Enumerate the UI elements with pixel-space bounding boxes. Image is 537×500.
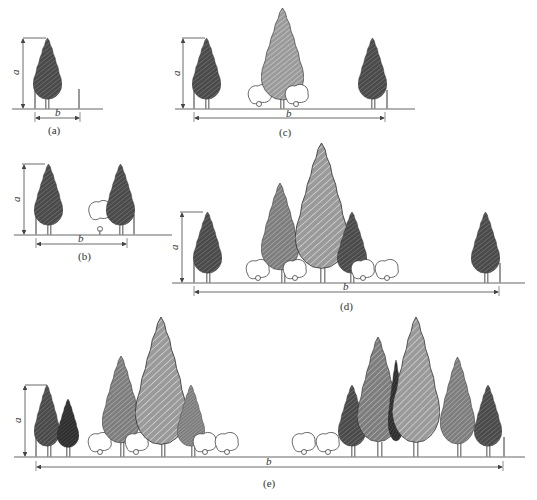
tree-dark (358, 38, 387, 109)
height-label: a (11, 417, 23, 423)
height-label: a (10, 196, 22, 202)
caption-a: (a) (48, 124, 61, 137)
tree-dark (193, 212, 222, 283)
stake (78, 89, 80, 109)
shrub (193, 432, 216, 454)
width-label: b (55, 106, 61, 118)
width-label: b (266, 455, 272, 467)
caption-b: (b) (78, 250, 91, 263)
height-label: a (9, 69, 21, 75)
shrub (215, 432, 238, 454)
shrub (285, 84, 308, 106)
height-label: a (170, 70, 182, 76)
stake (133, 215, 135, 235)
tree-medium (440, 357, 475, 457)
caption-c: (c) (279, 126, 292, 139)
shrub (316, 432, 339, 454)
width-label: b (286, 107, 292, 119)
width-label: b (343, 280, 349, 292)
panel-e: a (11, 317, 525, 490)
panel-c: a b (c) (170, 8, 415, 139)
tree-dark (33, 38, 62, 109)
panel-a: a b (a) (9, 38, 103, 137)
stake (193, 263, 195, 283)
tree-dark (34, 385, 60, 457)
shrub (375, 259, 398, 280)
width-label: b (78, 232, 84, 244)
height-label: a (168, 244, 180, 250)
tree-dark (471, 212, 500, 283)
caption-e: (e) (263, 477, 276, 490)
tree-dark (106, 164, 135, 235)
shrub (351, 259, 374, 280)
tree-dark (474, 385, 502, 457)
tree-dark (192, 38, 221, 109)
shrub (283, 259, 306, 280)
stake (499, 263, 501, 283)
tree-darker (57, 399, 79, 457)
stake (386, 90, 388, 109)
stake (503, 437, 505, 457)
panel-d: a (168, 143, 525, 313)
tree-dark (34, 164, 63, 235)
panel-b: a b (b) (10, 164, 172, 263)
shrub (292, 432, 315, 454)
caption-d: (d) (340, 300, 353, 313)
tree-spacing-diagram: a b (a) a (0, 0, 537, 500)
